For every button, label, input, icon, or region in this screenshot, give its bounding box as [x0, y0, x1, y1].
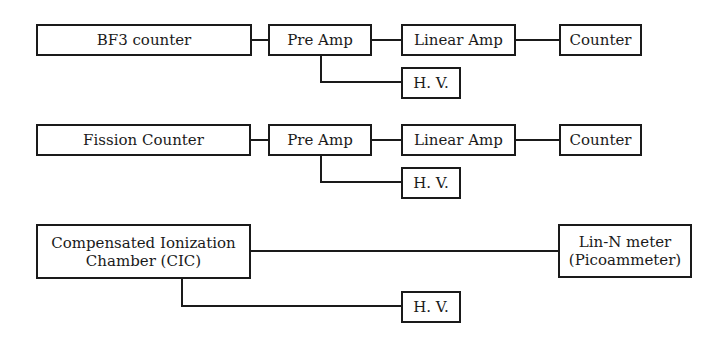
cic-label-line2: Chamber (CIC)	[86, 252, 201, 270]
connector-preamp-linearamp-1	[372, 39, 401, 41]
bf3-counter-label: BF3 counter	[97, 31, 192, 49]
hv-box-2: H. V.	[401, 167, 461, 199]
connector-fission-preamp	[251, 139, 268, 141]
connector-linearamp-counter-1	[516, 39, 559, 41]
counter-label-2: Counter	[570, 131, 632, 149]
linear-amp-box-2: Linear Amp	[401, 124, 516, 156]
connector-cic-hv-vertical	[181, 279, 183, 307]
meter-label-line2: (Picoammeter)	[569, 251, 681, 269]
linear-amp-label-2: Linear Amp	[414, 131, 503, 149]
cic-label-line1: Compensated Ionization	[51, 234, 236, 252]
hv-label-1: H. V.	[413, 74, 449, 92]
hv-label-2: H. V.	[413, 174, 449, 192]
fission-counter-box: Fission Counter	[36, 124, 251, 156]
linear-amp-box-1: Linear Amp	[401, 24, 516, 56]
counter-box-1: Counter	[559, 24, 642, 56]
preamp-box-2: Pre Amp	[268, 124, 372, 156]
meter-label-line1: Lin-N meter	[579, 233, 672, 251]
hv-label-3: H. V.	[413, 298, 449, 316]
fission-counter-label: Fission Counter	[83, 131, 204, 149]
hv-box-1: H. V.	[401, 67, 461, 99]
connector-linearamp-counter-2	[516, 139, 559, 141]
linear-amp-label-1: Linear Amp	[414, 31, 503, 49]
lin-n-meter-box: Lin-N meter (Picoammeter)	[558, 224, 692, 278]
connector-preamp-hv-vertical-2	[320, 156, 322, 183]
counter-box-2: Counter	[559, 124, 642, 156]
connector-cic-meter	[251, 250, 558, 252]
connector-preamp-linearamp-2	[372, 139, 401, 141]
preamp-label-2: Pre Amp	[287, 131, 353, 149]
connector-preamp-hv-horizontal-1	[320, 81, 401, 83]
connector-preamp-hv-vertical-1	[320, 56, 322, 83]
cic-box: Compensated Ionization Chamber (CIC)	[36, 224, 251, 279]
hv-box-3: H. V.	[401, 291, 461, 323]
connector-bf3-preamp	[252, 39, 268, 41]
counter-label-1: Counter	[570, 31, 632, 49]
bf3-counter-box: BF3 counter	[36, 24, 252, 56]
preamp-label-1: Pre Amp	[287, 31, 353, 49]
preamp-box-1: Pre Amp	[268, 24, 372, 56]
connector-cic-hv-horizontal	[181, 305, 401, 307]
connector-preamp-hv-horizontal-2	[320, 181, 401, 183]
